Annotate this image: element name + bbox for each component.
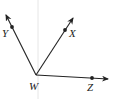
label-y: Y [2,27,10,39]
label-w: W [29,80,39,92]
ray-wz [36,75,108,79]
point-y [10,25,14,29]
label-x: X [68,27,77,39]
label-z: Z [87,81,94,93]
point-z [90,76,94,80]
point-x [63,28,67,32]
ray-wy [6,15,36,75]
ray-wx [36,18,73,75]
angle-diagram: Y X W Z [0,0,116,99]
